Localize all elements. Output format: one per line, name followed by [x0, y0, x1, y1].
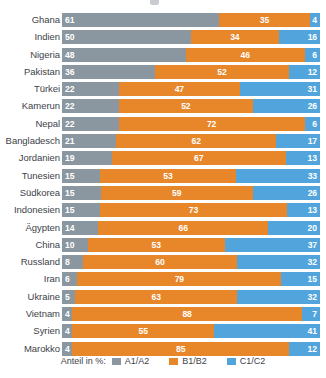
bar-segment-b1b2: 53: [100, 169, 235, 183]
bar-segment-a1a2: 61: [62, 13, 219, 27]
bar-segment-a1a2: 21: [62, 134, 116, 148]
legend-swatch-a1a2: [112, 358, 121, 365]
bar-segment-a1a2: 22: [62, 117, 119, 131]
legend-label-b1b2: B1/B2: [182, 356, 207, 366]
bar-segment-a1a2: 6: [62, 272, 77, 286]
stacked-bar: 155333: [62, 169, 320, 183]
legend-label-a1a2: A1/A2: [125, 356, 150, 366]
chart-row: Türkei224731: [0, 82, 326, 99]
row-label-indonesien: Indonesien: [0, 203, 62, 217]
bar-segment-a1a2: 19: [62, 151, 112, 165]
chart-row: Nigeria48466: [0, 48, 326, 65]
row-label-südkorea: Südkorea: [0, 186, 62, 200]
chart-row: Vietnam4887: [0, 307, 326, 324]
bar-segment-b1b2: 60: [83, 255, 238, 269]
bar-segment-b1b2: 34: [191, 30, 279, 44]
bar-segment-a1a2: 15: [62, 186, 101, 200]
bar-segment-a1a2: 8: [62, 255, 83, 269]
chart-legend: Anteil in %: A1/A2 B1/B2 C1/C2: [0, 356, 326, 366]
bar-segment-c1c2: 12: [289, 65, 320, 79]
chart-row: Jordanien196713: [0, 151, 326, 168]
bar-segment-c1c2: 41: [214, 324, 320, 338]
bar-segment-b1b2: 52: [155, 65, 289, 79]
bar-segment-a1a2: 4: [62, 324, 72, 338]
bar-segment-b1b2: 62: [116, 134, 276, 148]
row-label-syrien: Syrien: [0, 324, 62, 338]
row-label-tunesien: Tunesien: [0, 169, 62, 183]
row-label-ghana: Ghana: [0, 13, 62, 27]
stacked-bar: 86032: [62, 255, 320, 269]
bar-segment-c1c2: 31: [240, 82, 320, 96]
chart-row: Indien503416: [0, 30, 326, 47]
chart-row: Bangladesch216217: [0, 134, 326, 151]
chart-row: Südkorea155926: [0, 186, 326, 203]
chart-row: Kamerun225226: [0, 99, 326, 116]
bar-segment-a1a2: 15: [62, 169, 100, 183]
chart-row: Syrien45541: [0, 324, 326, 341]
legend-item-c1c2: C1/C2: [227, 356, 266, 366]
legend-label-c1c2: C1/C2: [240, 356, 266, 366]
bar-segment-c1c2: 32: [237, 255, 320, 269]
bar-segment-b1b2: 55: [72, 324, 214, 338]
chart-row: Tunesien155333: [0, 169, 326, 186]
stacked-bar: 56332: [62, 290, 320, 304]
row-label-bangladesch: Bangladesch: [0, 134, 62, 148]
bar-segment-b1b2: 72: [119, 117, 305, 131]
stacked-bar: 155926: [62, 186, 320, 200]
stacked-bar: 146620: [62, 221, 320, 235]
bar-segment-c1c2: 6: [305, 117, 320, 131]
stacked-bar: 157313: [62, 203, 320, 217]
chart-row: Ukraine56332: [0, 290, 326, 307]
bar-segment-c1c2: 33: [236, 169, 320, 183]
bar-segment-c1c2: 26: [253, 186, 320, 200]
bar-segment-a1a2: 50: [62, 30, 191, 44]
row-label-türkei: Türkei: [0, 82, 62, 96]
stacked-bar: 105337: [62, 238, 320, 252]
chart-row: China105337: [0, 238, 326, 255]
bar-segment-a1a2: 10: [62, 238, 88, 252]
stacked-bar-chart: Ghana61354Indien503416Nigeria48466Pakist…: [0, 0, 326, 378]
row-label-indien: Indien: [0, 30, 62, 44]
bar-segment-c1c2: 17: [276, 134, 320, 148]
chart-row: Russland86032: [0, 255, 326, 272]
bar-segment-c1c2: 7: [302, 307, 320, 321]
row-label-ukraine: Ukraine: [0, 290, 62, 304]
stacked-bar: 48466: [62, 48, 320, 62]
bar-segment-c1c2: 13: [287, 203, 320, 217]
bar-segment-b1b2: 79: [77, 272, 281, 286]
bar-segment-c1c2: 13: [286, 151, 320, 165]
row-label-nepal: Nepal: [0, 117, 62, 131]
bar-segment-b1b2: 73: [100, 203, 286, 217]
chart-row: Ghana61354: [0, 13, 326, 30]
stacked-bar: 224731: [62, 82, 320, 96]
bar-segment-c1c2: 16: [279, 30, 320, 44]
bar-segment-c1c2: 37: [225, 238, 320, 252]
row-label-vietnam: Vietnam: [0, 307, 62, 321]
bar-segment-b1b2: 88: [72, 307, 301, 321]
stacked-bar: 216217: [62, 134, 320, 148]
row-label-pakistan: Pakistan: [0, 65, 62, 79]
legend-title: Anteil in %:: [61, 356, 106, 366]
bar-segment-a1a2: 5: [62, 290, 75, 304]
bar-segment-a1a2: 14: [62, 221, 98, 235]
row-label-jordanien: Jordanien: [0, 151, 62, 165]
bar-segment-a1a2: 4: [62, 342, 72, 356]
bar-segment-a1a2: 4: [62, 307, 72, 321]
bar-segment-b1b2: 52: [119, 99, 253, 113]
bar-segment-b1b2: 67: [112, 151, 287, 165]
bar-segment-c1c2: 32: [237, 290, 320, 304]
row-label-china: China: [0, 238, 62, 252]
bar-segment-a1a2: 36: [62, 65, 155, 79]
row-label-kamerun: Kamerun: [0, 99, 62, 113]
bar-segment-b1b2: 59: [101, 186, 253, 200]
bar-segment-b1b2: 46: [186, 48, 305, 62]
legend-swatch-c1c2: [227, 358, 236, 365]
bar-segment-c1c2: 4: [310, 13, 320, 27]
legend-item-b1b2: B1/B2: [169, 356, 207, 366]
stacked-bar: 48512: [62, 342, 320, 356]
chart-row: Iran67915: [0, 272, 326, 289]
stacked-bar: 61354: [62, 13, 320, 27]
bar-segment-a1a2: 15: [62, 203, 100, 217]
bar-segment-b1b2: 35: [219, 13, 309, 27]
row-label-nigeria: Nigeria: [0, 48, 62, 62]
